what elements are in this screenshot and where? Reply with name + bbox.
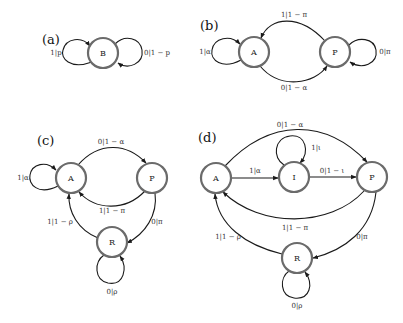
state-P-label: P (369, 173, 375, 182)
edge-b-A-self (212, 38, 241, 64)
edge-label-d-A-to-P: 0|1 − α (277, 121, 304, 129)
edge-label-d-R-self: 0|ρ (292, 302, 303, 310)
state-I-label: I (292, 173, 295, 182)
state-A-label: A (212, 174, 219, 183)
state-A-label: A (67, 174, 74, 183)
edge-label-d-R-to-A: 1|1 − ρ (215, 233, 241, 241)
edge-d-P-to-R (313, 192, 376, 258)
edge-label-d-P-to-A: 1|1 − π (282, 224, 309, 232)
edge-label-d-I-to-P: 0|1 − ι (320, 167, 345, 175)
edge-c-A-to-P (78, 147, 146, 165)
state-diagrams: (a) B 1|p 0|1 − p (b) A P 1|α 1|1 − π 0|… (0, 0, 403, 323)
panel-a-label: (a) (42, 32, 60, 47)
edge-label-b-A-self: 1|α (199, 48, 211, 56)
edge-label-c-A-to-P: 0|1 − α (98, 138, 125, 146)
panel-c-label: (c) (37, 133, 54, 148)
edge-c-R-self (97, 255, 124, 283)
edge-b-P-to-A (261, 21, 325, 41)
panel-b-label: (b) (200, 18, 218, 33)
edge-label-a-B-right: 0|1 − p (144, 49, 171, 57)
state-R-label: R (294, 254, 301, 263)
edge-label-d-I-self: 1|ι (311, 144, 321, 152)
edge-label-c-P-to-A: 1|1 − π (99, 207, 126, 215)
edge-d-R-self (282, 271, 309, 298)
state-B-label: B (100, 49, 106, 58)
edge-label-c-P-to-R: 0|π (151, 218, 163, 226)
edge-d-A-to-P (225, 129, 367, 166)
edge-c-P-to-A (79, 191, 145, 206)
state-A-label: A (250, 48, 257, 57)
edge-label-a-B-left: 1|p (50, 49, 62, 57)
edge-label-d-A-to-I: 1|α (249, 167, 261, 175)
panel-d-label: (d) (198, 130, 216, 145)
edge-label-b-P-to-A: 1|1 − π (281, 11, 308, 19)
edge-d-R-to-A (215, 194, 282, 254)
state-R-label: R (109, 238, 116, 247)
state-P-label: P (149, 174, 155, 183)
edge-label-c-R-self: 0|ρ (107, 288, 118, 296)
edge-label-b-P-self: 0|π (379, 48, 391, 56)
edge-d-P-to-A (223, 191, 364, 219)
edge-c-A-self (30, 164, 58, 190)
edge-d-I-self (276, 136, 305, 165)
edge-b-P-self (349, 39, 376, 65)
edge-b-A-to-P (260, 66, 327, 82)
panel-b: (b) A P 1|α 1|1 − π 0|1 − α 0|π (199, 11, 391, 92)
state-P-label: P (332, 48, 338, 57)
edge-label-b-A-to-P: 0|1 − α (281, 84, 308, 92)
edge-c-R-to-A (69, 194, 98, 238)
edge-label-d-P-to-R: 0|π (356, 233, 368, 241)
edge-label-c-R-to-A: 1|1 − ρ (47, 218, 73, 226)
panel-a: (a) B 1|p 0|1 − p (42, 32, 171, 68)
panel-d: (d) A I P R 0|1 − α 1|ι 1|α 0|1 − ι 1|1 … (198, 121, 387, 310)
edge-label-c-A-self: 1|α (17, 174, 29, 182)
panel-c: (c) A P R 1|α 0|1 − α 1|1 − π 0|π 1|1 − … (17, 133, 167, 296)
